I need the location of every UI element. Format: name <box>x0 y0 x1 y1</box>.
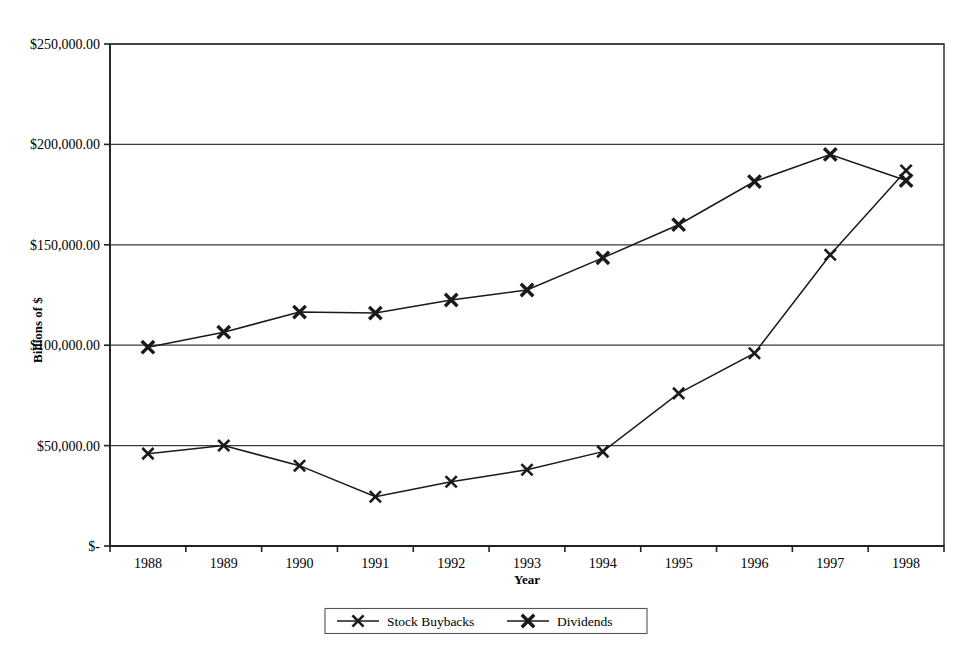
y-axis-ticks: $-$50,000.00$100,000.00$150,000.00$200,0… <box>30 37 110 554</box>
y-tick-label: $- <box>88 539 100 554</box>
line-chart: $-$50,000.00$100,000.00$150,000.00$200,0… <box>0 0 972 651</box>
x-tick-label: 1990 <box>286 556 314 571</box>
x-tick-label: 1988 <box>134 556 162 571</box>
x-tick-label: 1994 <box>589 556 617 571</box>
x-tick-label: 1995 <box>665 556 693 571</box>
x-tick-label: 1991 <box>361 556 389 571</box>
y-tick-label: $200,000.00 <box>30 137 100 152</box>
legend-item[interactable]: Dividends <box>507 614 613 629</box>
chart-legend: Stock BuybacksDividends <box>325 609 647 634</box>
y-tick-label: $50,000.00 <box>37 439 100 454</box>
chart-container: $-$50,000.00$100,000.00$150,000.00$200,0… <box>0 0 972 651</box>
x-tick-label: 1998 <box>892 556 920 571</box>
legend-label: Stock Buybacks <box>387 614 474 629</box>
y-tick-label: $250,000.00 <box>30 37 100 52</box>
y-tick-label: $150,000.00 <box>30 238 100 253</box>
y-axis-title: Billions of $ <box>30 297 45 363</box>
x-tick-label: 1989 <box>210 556 238 571</box>
x-axis-title: Year <box>514 572 540 587</box>
x-tick-label: 1992 <box>437 556 465 571</box>
x-tick-label: 1997 <box>816 556 844 571</box>
x-tick-label: 1996 <box>740 556 768 571</box>
x-axis-ticks: 1988198919901991199219931994199519961997… <box>110 546 944 571</box>
legend-label: Dividends <box>557 614 613 629</box>
x-tick-label: 1993 <box>513 556 541 571</box>
